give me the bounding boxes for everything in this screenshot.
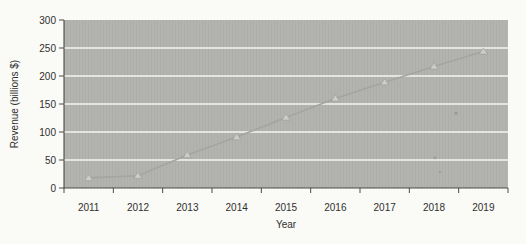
chart-svg: 0501001502002503002011201220132014201520… [0,0,526,244]
y-tick-label: 150 [39,99,56,110]
y-axis-title: Revenue (billions $) [9,60,20,148]
x-tick-label: 2017 [374,202,397,213]
x-tick-label: 2011 [78,202,100,213]
y-tick-label: 50 [45,155,57,166]
y-tick-label: 250 [39,43,56,54]
x-tick-label: 2019 [472,202,495,213]
x-tick-label: 2014 [226,202,249,213]
scan-speck [439,171,441,173]
y-tick-label: 300 [39,15,56,26]
chart-canvas: 0501001502002503002011201220132014201520… [0,0,526,244]
x-axis-title: Year [276,219,297,230]
y-tick-label: 0 [50,183,56,194]
x-tick-label: 2018 [423,202,446,213]
x-tick-label: 2012 [127,202,150,213]
x-tick-label: 2016 [324,202,347,213]
scan-speck [434,157,437,160]
x-tick-label: 2015 [275,202,298,213]
y-tick-label: 100 [39,127,56,138]
scan-speck [454,111,457,114]
y-tick-label: 200 [39,71,56,82]
revenue-line-chart: 0501001502002503002011201220132014201520… [0,0,526,244]
x-tick-label: 2013 [176,202,199,213]
